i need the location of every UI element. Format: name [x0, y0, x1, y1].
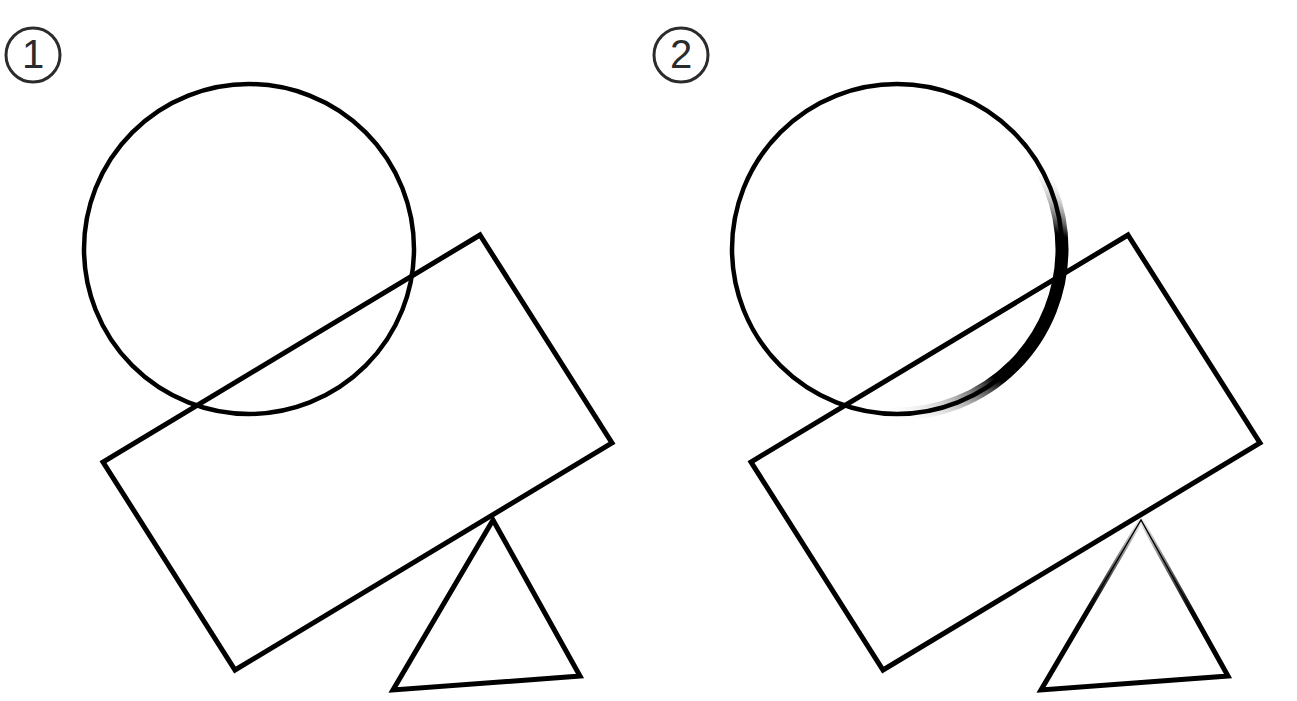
shape-triangle	[1041, 520, 1228, 690]
badge-number: 2	[670, 32, 692, 76]
shape-rectangle	[103, 235, 612, 670]
image-canvas: 1	[0, 0, 1297, 701]
shape-circle-emphasis-arc	[732, 84, 1062, 414]
panel-1: 1	[0, 0, 649, 701]
shape-circle	[84, 84, 414, 414]
panel-2-drawing: 2	[648, 0, 1297, 701]
shape-triangle	[393, 520, 580, 690]
panel-1-badge: 1	[6, 28, 60, 82]
badge-number: 1	[22, 32, 44, 76]
panel-1-drawing: 1	[0, 0, 649, 701]
shape-triangle-apex-hairlines	[1041, 520, 1228, 690]
panel-2-badge: 2	[654, 28, 708, 82]
shape-rectangle	[751, 235, 1260, 670]
panel-2: 2	[648, 0, 1297, 701]
